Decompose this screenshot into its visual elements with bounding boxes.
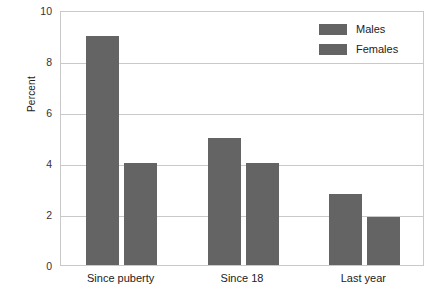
y-axis-tick-label: 0 [0, 261, 52, 272]
legend-label-females: Females [356, 44, 398, 55]
y-axis-tick-label: 8 [0, 57, 52, 68]
bar-females-1 [246, 163, 279, 265]
legend: Males Females [319, 24, 398, 55]
y-axis-tick-label: 4 [0, 159, 52, 170]
y-axis-tick-label: 2 [0, 210, 52, 221]
x-axis-tick-label: Since 18 [221, 272, 264, 284]
legend-swatch-females [319, 44, 347, 55]
legend-label-males: Males [356, 24, 385, 35]
x-axis-tick-label: Last year [341, 272, 386, 284]
bar-males-0 [86, 36, 119, 266]
legend-item-females: Females [319, 44, 398, 55]
y-axis-tick-label: 10 [0, 6, 52, 17]
plot-area: Males Females [60, 11, 424, 266]
legend-item-males: Males [319, 24, 398, 35]
bar-males-1 [208, 138, 241, 266]
bar-females-0 [124, 163, 157, 265]
bar-chart: Percent 0246810 Males Females Since pube… [0, 0, 440, 301]
legend-swatch-males [319, 24, 347, 35]
x-axis-tick-label: Since puberty [87, 272, 154, 284]
bar-females-2 [367, 217, 400, 265]
y-axis-title: Percent [26, 76, 37, 112]
y-axis-tick-label: 6 [0, 108, 52, 119]
bar-males-2 [329, 194, 362, 265]
